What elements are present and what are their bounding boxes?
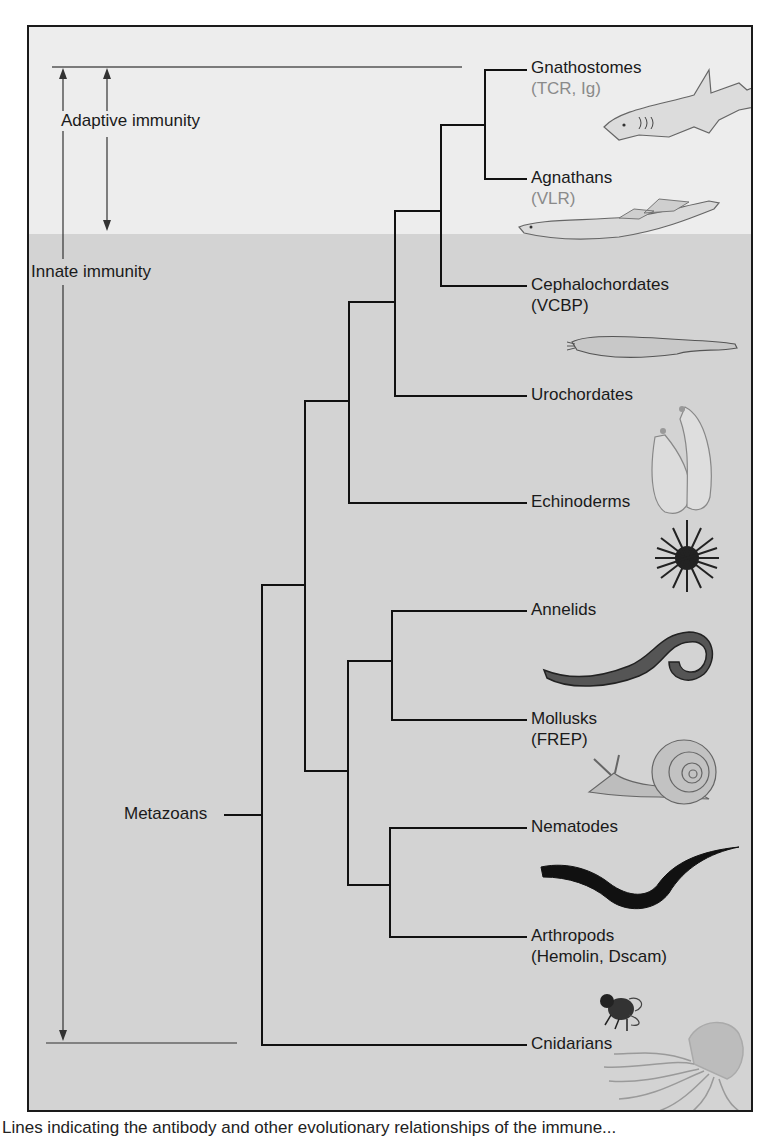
sea-squirt-icon [652, 406, 711, 513]
jellyfish-icon [604, 1023, 743, 1112]
roundworm-icon [541, 847, 739, 909]
adaptive-immunity-label: Adaptive immunity [59, 111, 202, 131]
figure-caption: Lines indicating the antibody and other … [2, 1118, 616, 1138]
phylogeny-figure: Adaptive immunity Innate immunity Metazo… [27, 25, 753, 1112]
taxon-mollusks: Mollusks [531, 709, 597, 729]
fly-icon [600, 994, 642, 1031]
lancelet-icon [567, 337, 737, 358]
taxon-echinoderms: Echinoderms [531, 492, 630, 512]
taxon-cephalochordates-receptors: (VCBP) [531, 296, 589, 316]
sea-urchin-icon [655, 520, 719, 592]
taxon-mollusks-receptors: (FREP) [531, 730, 588, 750]
taxon-cnidarians: Cnidarians [531, 1034, 612, 1054]
taxon-annelids: Annelids [531, 600, 596, 620]
earthworm-icon [544, 632, 712, 686]
taxon-arthropods-receptors: (Hemolin, Dscam) [531, 947, 667, 967]
taxon-gnathostomes: Gnathostomes [531, 58, 642, 78]
taxon-agnathans: Agnathans [531, 168, 612, 188]
taxon-agnathans-receptors: (VLR) [531, 189, 575, 209]
snail-icon [589, 740, 716, 804]
taxon-arthropods: Arthropods [531, 926, 614, 946]
metazoans-label: Metazoans [124, 804, 207, 824]
taxon-urochordates: Urochordates [531, 385, 633, 405]
taxon-nematodes: Nematodes [531, 817, 618, 837]
innate-immunity-label: Innate immunity [27, 262, 153, 282]
taxon-gnathostomes-receptors: (TCR, Ig) [531, 79, 601, 99]
taxon-cephalochordates: Cephalochordates [531, 275, 669, 295]
